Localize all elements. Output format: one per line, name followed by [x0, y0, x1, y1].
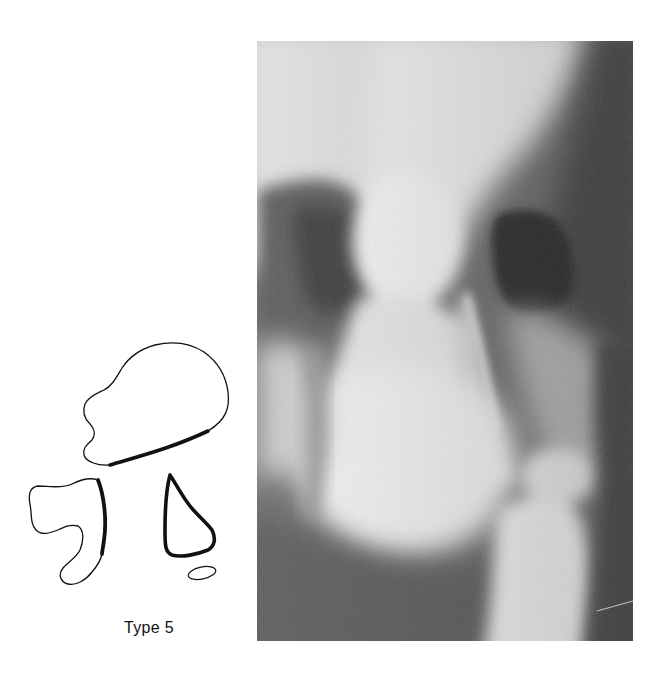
upper-bone-outline: [84, 343, 229, 465]
bone-diagram: [0, 0, 256, 684]
radiograph-image: [257, 41, 633, 641]
figure: Type 5: [0, 0, 666, 684]
figure-caption: Type 5: [124, 619, 174, 637]
left-bone-outline: [29, 479, 105, 585]
triangular-bone-outline: [165, 475, 214, 556]
small-ossicle-outline: [187, 564, 217, 582]
